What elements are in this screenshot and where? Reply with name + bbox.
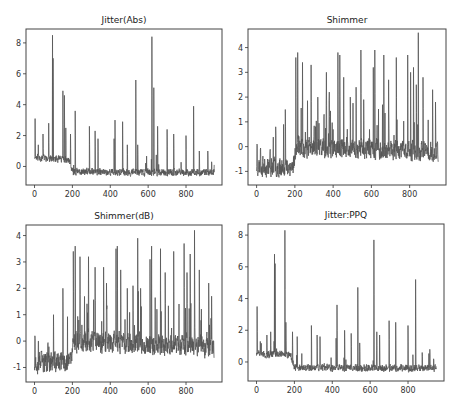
x-tick-label: 400: [325, 190, 340, 199]
panel-0: 020040060080002468: [16, 29, 222, 199]
series-line: [257, 230, 437, 372]
y-tick-label: 1: [16, 311, 21, 320]
y-tick-label: 2: [16, 284, 21, 293]
y-tick-label: 0: [238, 358, 243, 367]
y-tick-label: 4: [238, 44, 243, 53]
series-line: [257, 33, 439, 178]
y-tick-label: 4: [16, 232, 21, 241]
y-tick-label: 8: [238, 231, 243, 240]
x-tick-label: 600: [141, 190, 156, 199]
x-tick-label: 200: [65, 190, 80, 199]
y-tick-label: 0: [238, 143, 243, 152]
y-tick-label: 2: [16, 132, 21, 141]
x-tick-label: 600: [363, 386, 378, 395]
y-tick-label: 3: [238, 68, 243, 77]
x-tick-label: 0: [254, 190, 259, 199]
x-tick-label: 400: [103, 387, 118, 396]
x-tick-label: 600: [364, 190, 379, 199]
x-tick-label: 400: [325, 386, 340, 395]
line-charts: 0200400600800024680200400600800-10123402…: [0, 0, 458, 415]
y-tick-label: 2: [238, 93, 243, 102]
y-tick-label: 8: [16, 39, 21, 48]
y-tick-label: -1: [13, 363, 21, 372]
y-tick-label: 3: [16, 258, 21, 267]
x-tick-label: 0: [254, 386, 259, 395]
y-tick-label: 0: [16, 337, 21, 346]
series-line: [35, 230, 215, 374]
series-line: [35, 35, 215, 176]
x-tick-label: 800: [402, 190, 417, 199]
x-tick-label: 800: [178, 387, 193, 396]
x-tick-label: 800: [400, 386, 415, 395]
x-tick-label: 200: [65, 387, 80, 396]
y-tick-label: 4: [16, 101, 21, 110]
y-tick-label: 6: [16, 70, 21, 79]
x-tick-label: 800: [178, 190, 193, 199]
y-tick-label: -1: [235, 167, 243, 176]
x-tick-label: 0: [32, 387, 37, 396]
axes-frame: [248, 224, 444, 381]
x-tick-label: 600: [141, 387, 156, 396]
x-tick-label: 400: [103, 190, 118, 199]
x-tick-label: 200: [287, 386, 302, 395]
y-tick-label: 2: [238, 326, 243, 335]
y-tick-label: 4: [238, 295, 243, 304]
y-tick-label: 1: [238, 118, 243, 127]
panel-2: 0200400600800-101234: [13, 225, 222, 396]
y-tick-label: 0: [16, 162, 21, 171]
panel-3: 020040060080002468: [238, 224, 444, 395]
x-tick-label: 0: [32, 190, 37, 199]
y-tick-label: 6: [238, 263, 243, 272]
panel-1: 0200400600800-101234: [235, 29, 446, 199]
x-tick-label: 200: [287, 190, 302, 199]
